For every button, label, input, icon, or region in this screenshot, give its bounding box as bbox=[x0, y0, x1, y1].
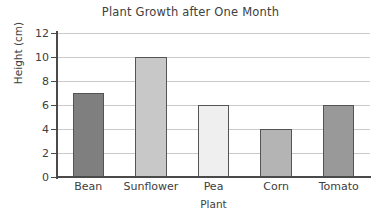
y-axis-tick-label: 10 bbox=[9, 51, 49, 64]
y-axis-tick-label: 8 bbox=[9, 75, 49, 88]
y-axis-line bbox=[56, 31, 58, 179]
y-axis-tick-label: 12 bbox=[9, 27, 49, 40]
bar-corn bbox=[260, 129, 291, 177]
y-axis-tick-label: 0 bbox=[9, 171, 49, 184]
bar-bean bbox=[73, 93, 104, 177]
x-axis-tick-label: Sunflower bbox=[123, 180, 178, 193]
y-axis-tick-label: 4 bbox=[9, 123, 49, 136]
bar-pea bbox=[198, 105, 229, 177]
x-axis-tick-label: Pea bbox=[204, 180, 224, 193]
x-axis-tick-label: Corn bbox=[263, 180, 289, 193]
plot-area bbox=[57, 33, 370, 177]
bar-series bbox=[57, 33, 370, 177]
x-axis-tick-label: Bean bbox=[74, 180, 102, 193]
bar-chart: Plant Growth after One Month Height (cm)… bbox=[0, 0, 381, 224]
x-axis-line bbox=[56, 176, 371, 178]
x-axis-tick-label: Tomato bbox=[319, 180, 359, 193]
y-axis-tick-label: 2 bbox=[9, 147, 49, 160]
bar-tomato bbox=[323, 105, 354, 177]
y-axis-tick-label: 6 bbox=[9, 99, 49, 112]
bar-sunflower bbox=[135, 57, 166, 177]
x-axis-tick-labels: BeanSunflowerPeaCornTomato bbox=[57, 180, 370, 198]
x-axis-title: Plant bbox=[57, 198, 370, 210]
